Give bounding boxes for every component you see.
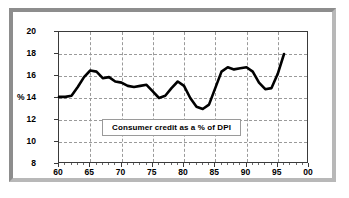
y-tick-10 bbox=[54, 141, 58, 142]
x-axis-label-1960: 60 bbox=[47, 168, 69, 177]
x-axis-label-1985: 85 bbox=[203, 168, 225, 177]
y-axis-label-20: 20 bbox=[27, 27, 36, 36]
y-axis-label-12: 12 bbox=[27, 115, 36, 124]
x-minor-tick bbox=[196, 163, 197, 165]
x-minor-tick bbox=[289, 163, 290, 165]
y-axis-label-14-text: 14 bbox=[27, 92, 36, 102]
y-axis-label-16: 16 bbox=[27, 71, 36, 80]
x-minor-tick bbox=[108, 163, 109, 165]
x-minor-tick bbox=[171, 163, 172, 165]
x-axis-label-1965-text: 65 bbox=[85, 167, 94, 177]
x-minor-tick bbox=[102, 163, 103, 165]
y-axis-label-8-text: 8 bbox=[31, 158, 36, 168]
x-axis-label-1990: 90 bbox=[235, 168, 257, 177]
legend-annotation-box: Consumer credit as a % of DPI bbox=[102, 119, 241, 136]
x-minor-tick bbox=[233, 163, 234, 165]
y-axis-label-18: 18 bbox=[27, 49, 36, 58]
x-axis-label-1980: 80 bbox=[172, 168, 194, 177]
x-axis-label-1970-text: 70 bbox=[116, 167, 125, 177]
y-axis-label-12-text: 12 bbox=[27, 114, 36, 124]
x-minor-tick bbox=[221, 163, 222, 165]
y-tick-14 bbox=[54, 97, 58, 98]
x-axis-label-1995: 95 bbox=[266, 168, 288, 177]
x-axis-label-1990-text: 90 bbox=[241, 167, 250, 177]
x-minor-tick bbox=[158, 163, 159, 165]
x-axis-label-1985-text: 85 bbox=[210, 167, 219, 177]
x-axis-label-1980-text: 80 bbox=[178, 167, 187, 177]
y-axis-label-14: %14 bbox=[17, 93, 36, 102]
x-minor-tick bbox=[252, 163, 253, 165]
y-tick-16 bbox=[54, 75, 58, 76]
x-minor-tick bbox=[164, 163, 165, 165]
chart-image-frame: 20 18 16 %14 12 10 8 bbox=[0, 0, 349, 198]
series-polyline bbox=[59, 54, 284, 109]
x-minor-tick bbox=[114, 163, 115, 165]
x-minor-tick bbox=[146, 163, 147, 165]
x-minor-tick bbox=[258, 163, 259, 165]
x-minor-tick bbox=[189, 163, 190, 165]
x-minor-tick bbox=[71, 163, 72, 165]
y-axis-label-10-text: 10 bbox=[27, 136, 36, 146]
y-axis-label-8: 8 bbox=[31, 159, 36, 168]
y-tick-20 bbox=[54, 31, 58, 32]
y-axis-label-10: 10 bbox=[27, 137, 36, 146]
x-minor-tick bbox=[83, 163, 84, 165]
x-minor-tick bbox=[177, 163, 178, 165]
plot-area bbox=[58, 31, 308, 163]
series-line-consumer-credit bbox=[59, 32, 309, 164]
percent-symbol: % bbox=[17, 92, 25, 102]
x-minor-tick bbox=[208, 163, 209, 165]
y-tick-18 bbox=[54, 53, 58, 54]
y-axis-label-18-text: 18 bbox=[27, 48, 36, 58]
x-minor-tick bbox=[271, 163, 272, 165]
x-minor-tick bbox=[264, 163, 265, 165]
x-axis-label-1970: 70 bbox=[110, 168, 132, 177]
x-minor-tick bbox=[302, 163, 303, 165]
x-axis-label-1965: 65 bbox=[78, 168, 100, 177]
y-axis-label-20-text: 20 bbox=[27, 26, 36, 36]
x-axis-label-2000: 00 bbox=[297, 168, 319, 177]
x-axis-label-2000-text: 00 bbox=[303, 167, 312, 177]
x-minor-tick bbox=[283, 163, 284, 165]
x-axis-label-1960-text: 60 bbox=[53, 167, 62, 177]
x-axis-label-1975: 75 bbox=[141, 168, 163, 177]
x-minor-tick bbox=[296, 163, 297, 165]
y-tick-12 bbox=[54, 119, 58, 120]
x-minor-tick bbox=[227, 163, 228, 165]
legend-label-text: Consumer credit as a % of DPI bbox=[112, 123, 231, 132]
x-axis-label-1995-text: 95 bbox=[272, 167, 281, 177]
x-minor-tick bbox=[239, 163, 240, 165]
x-minor-tick bbox=[77, 163, 78, 165]
y-axis-label-16-text: 16 bbox=[27, 70, 36, 80]
x-minor-tick bbox=[139, 163, 140, 165]
x-minor-tick bbox=[133, 163, 134, 165]
line-chart: 20 18 16 %14 12 10 8 bbox=[24, 20, 324, 178]
x-minor-tick bbox=[202, 163, 203, 165]
x-minor-tick bbox=[127, 163, 128, 165]
x-minor-tick bbox=[64, 163, 65, 165]
x-minor-tick bbox=[96, 163, 97, 165]
x-axis-label-1975-text: 75 bbox=[147, 167, 156, 177]
